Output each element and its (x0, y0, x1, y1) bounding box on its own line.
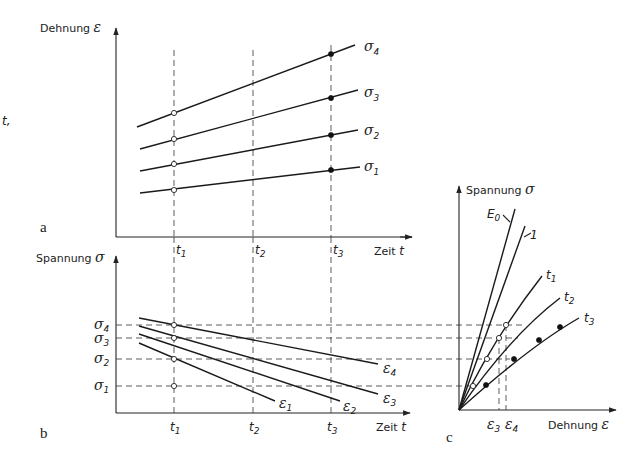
panel-a-letter: a (40, 219, 47, 235)
panel-c-curve-label: t2 (564, 290, 575, 306)
creep-relaxation-diagram: t, Dehnung ε a σ4 σ3 σ2 σ1 t1 t2 t3 Zeit… (0, 0, 640, 465)
panel-c-curve-E0 (459, 209, 515, 410)
panel-b-curve-label: ε2 (343, 398, 357, 416)
panel-a-marker-t3-sigma3 (328, 95, 333, 100)
panel-c-letter: c (446, 429, 453, 445)
panel-b-tick-t1: t1 (170, 420, 180, 436)
panel-b-curve-label: ε3 (383, 390, 397, 408)
panel-c-curve-label: 1 (530, 228, 538, 242)
panel-b-curve-eps2 (139, 334, 340, 401)
panel-a-curve-label: σ3 (364, 84, 380, 103)
panel-b-stress-label: σ1 (94, 377, 109, 395)
panel-b-curve-label: ε4 (383, 360, 397, 378)
panel-b-x-axis-label: Zeit t (376, 420, 407, 434)
panel-c-tick-eps3: ε3 (487, 416, 501, 434)
panel-b-tick-t3: t3 (327, 420, 338, 436)
panel-c-marker-t3-sigma4 (557, 324, 562, 329)
panel-c-curve-1 (459, 226, 525, 410)
panel-b-letter: b (40, 425, 48, 441)
panel-c-marker-t1-sigma4 (503, 322, 508, 327)
panel-c-curve-label: t1 (546, 268, 556, 284)
panel-c-marker-t1-sigma1 (470, 383, 475, 388)
margin-text: t, (2, 114, 11, 128)
panel-b-marker-sigma2 (171, 356, 176, 361)
panel-c: Spannung σ Dehnung ε c E0 1 t1 t2 t3 ε3 … (446, 181, 616, 445)
panel-a: Dehnung ε a σ4 σ3 σ2 σ1 t1 t2 t3 Zeit t (40, 19, 412, 259)
panel-b-marker-sigma4 (171, 322, 176, 327)
panel-a-marker-t1-sigma1 (171, 187, 176, 192)
panel-b: Spannung σ b σ4 σ3 σ2 σ1 ε4 ε3 ε2 ε1 t1 … (36, 237, 526, 441)
panel-a-curve-label: σ4 (364, 38, 380, 57)
panel-a-marker-t3-sigma2 (328, 132, 333, 137)
panel-b-marker-sigma1 (171, 383, 176, 388)
panel-c-marker-t3-sigma1 (483, 382, 488, 387)
panel-c-x-axis-label: Dehnung ε (548, 416, 609, 432)
panel-b-marker-sigma3 (171, 335, 176, 340)
panel-a-tick-t2: t2 (255, 243, 266, 259)
panel-a-marker-t1-sigma4 (171, 110, 176, 115)
panel-a-curve-label: σ1 (364, 158, 379, 177)
panel-a-curve-sigma4 (137, 45, 355, 127)
panel-b-curve-label: ε1 (279, 395, 292, 413)
panel-c-marker-t1-sigma3 (496, 335, 501, 340)
panel-c-y-axis-label: Spannung σ (466, 181, 535, 197)
panel-b-stress-label: σ2 (94, 350, 110, 368)
panel-c-marker-t3-sigma3 (536, 337, 541, 342)
panel-b-y-axis-label: Spannung σ (36, 249, 105, 265)
panel-c-marker-t3-sigma2 (511, 356, 516, 361)
panel-a-x-axis-label: Zeit t (374, 244, 405, 258)
panel-c-tick-eps4: ε4 (505, 416, 519, 434)
panel-c-curve-label: E0 (487, 207, 501, 223)
panel-b-tick-t2: t2 (249, 420, 260, 436)
panel-a-marker-t1-sigma2 (171, 161, 176, 166)
panel-a-y-axis-label: Dehnung ε (40, 19, 101, 35)
panel-c-E0-leader (503, 215, 510, 222)
panel-c-curve-label: t3 (584, 311, 595, 327)
panel-a-marker-t3-sigma4 (328, 51, 333, 56)
panel-a-tick-t1: t1 (176, 243, 186, 259)
panel-a-tick-t3: t3 (333, 243, 344, 259)
panel-c-curve-t3 (459, 318, 579, 410)
panel-a-marker-t3-sigma1 (328, 167, 333, 172)
panel-a-marker-t1-sigma3 (171, 136, 176, 141)
panel-c-marker-t1-sigma2 (484, 356, 489, 361)
panel-a-curve-label: σ2 (364, 122, 380, 141)
